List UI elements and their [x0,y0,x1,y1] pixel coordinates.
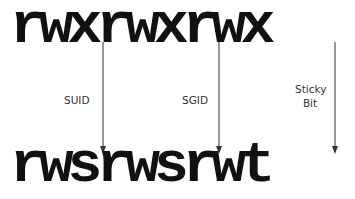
perm-char: w [212,133,241,198]
perm-char: s [154,133,183,198]
suid-label: SUID [64,93,90,107]
perm-char: s [68,133,97,198]
perm-char: r [10,133,39,198]
special-permissions: rwsrwsrwt [10,133,355,198]
sgid-label: SGID [182,93,208,107]
perm-char: w [125,133,154,198]
sticky-label-line2: Bit [295,96,325,110]
perm-char: t [240,133,269,198]
perm-char: r [96,133,125,198]
sticky-bit-label: Sticky Bit [295,82,325,110]
perm-char: w [39,133,68,198]
sticky-label-line1: Sticky [295,82,325,96]
perm-char: r [183,133,212,198]
